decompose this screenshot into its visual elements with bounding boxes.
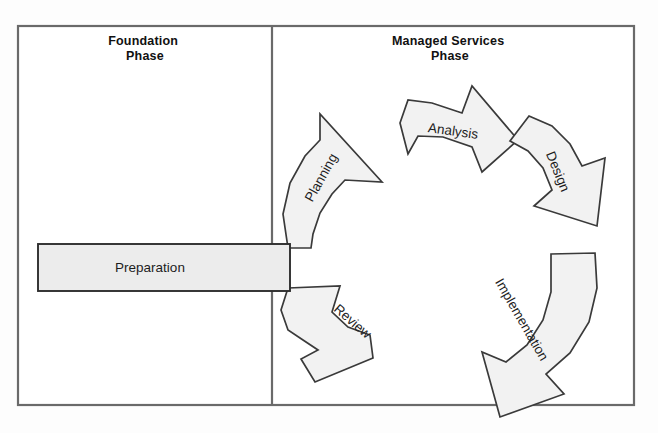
foundation-phase-heading-line1: Foundation	[108, 34, 178, 48]
managed-services-phase-heading-line1: Managed Services	[392, 34, 504, 48]
preparation-label: Preparation	[115, 260, 185, 275]
diagram-root: Foundation Phase Managed Services Phase …	[0, 0, 658, 433]
managed-services-phase-heading-line2: Phase	[431, 49, 469, 63]
foundation-phase-heading-line2: Phase	[126, 49, 164, 63]
preparation-block[interactable]: Preparation	[38, 244, 290, 291]
lifecycle-diagram: Foundation Phase Managed Services Phase …	[0, 0, 658, 433]
